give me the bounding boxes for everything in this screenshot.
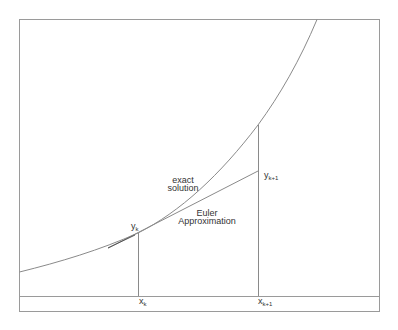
yk-label: yk (131, 221, 140, 232)
euler-label-line2: Approximation (178, 216, 236, 226)
tangent-overlap (108, 235, 135, 248)
plot-frame (20, 20, 380, 312)
exact-label-line2: solution (167, 183, 198, 193)
exact-solution-curve (20, 20, 318, 273)
euler-diagram: exact solution Euler Approximation yk yk… (0, 0, 398, 330)
xk1-label: xk+1 (258, 296, 273, 307)
yk1-label: yk+1 (264, 170, 279, 181)
xk-label: xk (139, 296, 148, 307)
